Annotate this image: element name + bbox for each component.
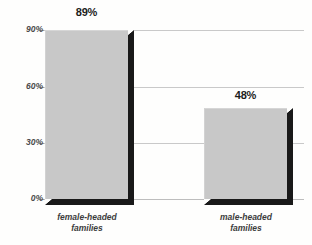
bar-bottom-female-headed [45, 199, 134, 205]
x-axis-label-male-headed-line1: male-headed [195, 212, 297, 223]
bar-side-male-headed [286, 108, 293, 199]
bar-value-label-female-headed: 89% [45, 6, 128, 18]
bar-side-female-headed [127, 30, 134, 199]
x-axis-label-female-headed-line1: female-headed [36, 212, 138, 223]
bar-value-label-male-headed: 48% [204, 89, 287, 101]
bar-female-headed[interactable] [45, 30, 128, 199]
y-axis-label-0: 0% [7, 194, 43, 203]
bar-chart: 90% 60% 30% 0% 89% female-headed familie… [0, 0, 312, 245]
y-axis-label-60: 60% [7, 82, 43, 91]
bar-male-headed[interactable] [204, 108, 287, 199]
y-axis-label-30: 30% [7, 138, 43, 147]
x-axis-label-male-headed: male-headed families [195, 212, 297, 234]
bar-bottom-male-headed [204, 199, 293, 205]
x-axis-label-male-headed-line2: families [195, 223, 297, 234]
x-axis-label-female-headed: female-headed families [36, 212, 138, 234]
x-axis-label-female-headed-line2: families [36, 223, 138, 234]
y-axis-label-90: 90% [7, 25, 43, 34]
